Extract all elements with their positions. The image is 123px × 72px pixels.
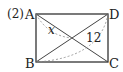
label-12: 12: [86, 32, 101, 44]
problem-number: (2): [7, 8, 24, 20]
vertex-a: A: [25, 8, 34, 21]
label-x: x: [48, 24, 55, 36]
vertex-c: C: [109, 57, 119, 70]
vertex-b: B: [25, 57, 35, 70]
vertex-d: D: [109, 8, 119, 21]
